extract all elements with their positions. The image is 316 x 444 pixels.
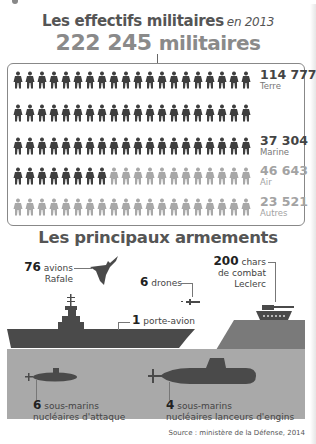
soldier-icons	[12, 137, 252, 155]
soldier-row-1	[12, 68, 252, 92]
soldier-icon	[180, 167, 192, 185]
soldier-icon	[72, 137, 84, 155]
soldier-icon	[84, 167, 96, 185]
soldier-icon	[204, 104, 216, 122]
soldier-icons	[12, 71, 252, 89]
text-rafale-2: Rafale	[45, 274, 73, 284]
total-number: 222 245	[56, 30, 152, 55]
soldier-icons	[12, 198, 252, 216]
soldier-icon	[12, 137, 24, 155]
tank-leclerc-icon	[254, 303, 296, 321]
attack-submarine-icon	[24, 367, 80, 383]
soldier-row-5	[12, 195, 252, 219]
soldier-icon	[108, 198, 120, 216]
leader-line-chars-v	[275, 262, 276, 302]
text-snle-1: sous-marins	[177, 401, 232, 411]
soldier-icon	[240, 167, 252, 185]
soldier-icon	[72, 71, 84, 89]
name-air: Air	[260, 177, 308, 187]
soldier-icon	[204, 71, 216, 89]
soldier-icon	[108, 167, 120, 185]
soldier-icon	[216, 167, 228, 185]
leader-line-chars-h	[268, 262, 275, 263]
total-militaires: 222 245 militaires	[0, 30, 316, 55]
soldier-icon	[144, 71, 156, 89]
count-rafale: 76	[24, 260, 41, 274]
soldier-icon	[24, 137, 36, 155]
soldier-icon	[228, 71, 240, 89]
soldier-icon	[96, 71, 108, 89]
soldier-icon	[180, 198, 192, 216]
count-porte-avion: 1	[132, 313, 140, 327]
soldier-row-2	[12, 101, 252, 125]
effectifs-panel: 114 777 Terre 37 304 Marine 46 643 Air 2…	[7, 63, 305, 226]
soldier-icon	[168, 167, 180, 185]
label-porte-avion: 1 porte-avion	[132, 315, 195, 327]
soldier-icon	[216, 137, 228, 155]
soldier-icon	[84, 198, 96, 216]
soldier-icon	[48, 71, 60, 89]
text-snle-2: nucléaires lanceurs d'engins	[166, 412, 294, 422]
soldier-icon	[60, 71, 72, 89]
leader-line-drones-h	[181, 283, 192, 284]
text-chars-1: chars	[241, 257, 266, 267]
connector-tick	[157, 54, 158, 63]
soldier-icon	[36, 137, 48, 155]
soldier-icon	[120, 198, 132, 216]
soldier-icon	[72, 104, 84, 122]
total-unit: militaires	[159, 31, 261, 55]
soldier-icon	[96, 137, 108, 155]
text-porte-avion: porte-avion	[143, 316, 195, 326]
soldier-icon	[96, 104, 108, 122]
soldier-icon	[240, 104, 252, 122]
soldier-icon	[108, 71, 120, 89]
name-marine: Marine	[260, 147, 308, 157]
text-sna-2: nucléaires d'attaque	[33, 412, 125, 422]
label-drones: 6 drones	[140, 277, 182, 289]
text-drones: drones	[151, 278, 182, 288]
soldier-icon	[168, 198, 180, 216]
soldier-icon	[216, 198, 228, 216]
soldier-icon	[72, 198, 84, 216]
count-air: 46 643	[260, 164, 308, 177]
soldier-icon	[36, 104, 48, 122]
count-terre: 114 777	[260, 68, 316, 81]
infographic: Les effectifs militairesen 2013 222 245 …	[0, 0, 316, 444]
soldier-icon	[144, 167, 156, 185]
soldier-icon	[120, 104, 132, 122]
source-credit: Source : ministère de la Défense, 2014	[168, 429, 305, 437]
soldier-icon	[60, 137, 72, 155]
soldier-icon	[216, 104, 228, 122]
soldier-icon	[84, 104, 96, 122]
ballistic-submarine-icon	[146, 356, 258, 388]
name-terre: Terre	[260, 81, 316, 91]
soldier-icon	[120, 137, 132, 155]
soldier-icon	[192, 104, 204, 122]
soldier-icon	[24, 71, 36, 89]
soldier-icon	[96, 198, 108, 216]
soldier-icon	[36, 167, 48, 185]
soldier-icon	[168, 137, 180, 155]
text-chars-2: de combat	[218, 268, 266, 278]
soldier-icon	[48, 104, 60, 122]
title-year: en 2013	[227, 15, 274, 29]
soldier-icon	[180, 137, 192, 155]
section-title-effectifs: Les effectifs militairesen 2013	[0, 12, 316, 30]
soldier-icon	[108, 104, 120, 122]
soldier-icon	[108, 137, 120, 155]
soldier-icon	[132, 104, 144, 122]
soldier-icon	[72, 167, 84, 185]
soldier-icon	[36, 71, 48, 89]
soldier-icon	[192, 137, 204, 155]
soldier-icon	[84, 71, 96, 89]
soldier-icon	[240, 71, 252, 89]
soldier-icon	[132, 167, 144, 185]
soldier-icon	[24, 104, 36, 122]
soldier-icon	[228, 198, 240, 216]
soldier-row-4	[12, 164, 252, 188]
soldier-icon	[60, 104, 72, 122]
title-text: Les effectifs militaires	[42, 12, 224, 30]
soldier-icon	[228, 104, 240, 122]
soldier-icon	[132, 137, 144, 155]
soldier-icon	[156, 71, 168, 89]
